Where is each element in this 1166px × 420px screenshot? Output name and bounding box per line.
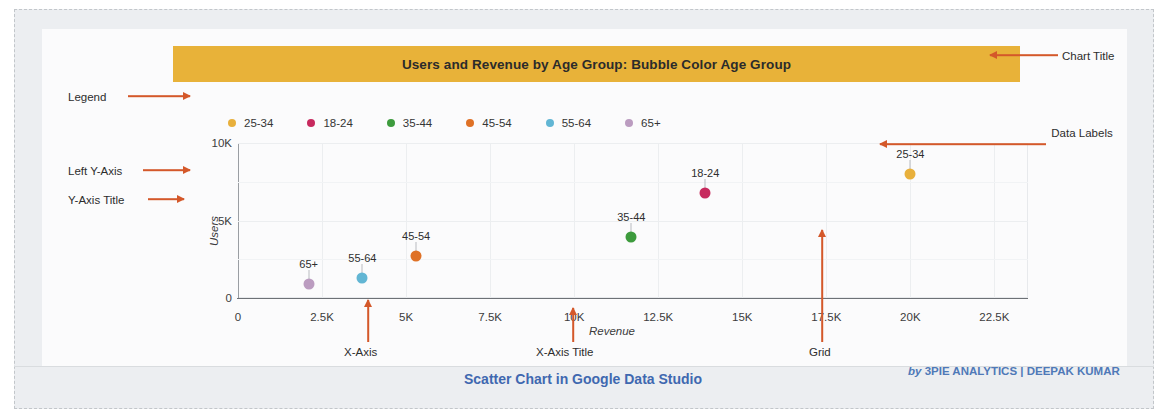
annotation-x-axis-title: X-Axis Title (536, 346, 594, 358)
legend-item-25-34[interactable]: 25-34 (228, 117, 273, 129)
legend-color-swatch-icon (625, 119, 633, 127)
x-axis-tick-label: 20K (900, 311, 920, 323)
legend-item-label: 35-44 (403, 117, 432, 129)
annotation-arrow-y-axis-title (148, 194, 184, 204)
data-label: 35-44 (617, 211, 645, 223)
legend-item-label: 25-34 (244, 117, 273, 129)
legend-item-label: 55-64 (562, 117, 591, 129)
annotation-grid: Grid (809, 346, 831, 358)
caption-divider (14, 366, 1154, 367)
data-bubble-45-54[interactable] (411, 251, 422, 262)
legend-item-65plus[interactable]: 65+ (625, 117, 661, 129)
x-axis-tick-label: 12.5K (643, 311, 673, 323)
legend-item-35-44[interactable]: 35-44 (387, 117, 432, 129)
legend-color-swatch-icon (228, 119, 236, 127)
x-axis-line (237, 298, 1028, 299)
chart-legend[interactable]: 25-3418-2435-4445-5455-6465+ (228, 117, 661, 129)
annotation-legend: Legend (68, 91, 106, 103)
chart-card: Users and Revenue by Age Group: Bubble C… (42, 29, 1127, 367)
chart-title-text: Users and Revenue by Age Group: Bubble C… (402, 57, 791, 72)
x-axis-title: Revenue (173, 325, 1051, 337)
legend-item-45-54[interactable]: 45-54 (466, 117, 511, 129)
data-label: 65+ (299, 258, 318, 270)
y-axis-title: Users (208, 216, 220, 246)
annotation-arrow-legend (128, 91, 190, 101)
x-axis-tick-label: 5K (399, 311, 413, 323)
annotation-left-y-axis: Left Y-Axis (68, 165, 122, 177)
annotation-data-labels: Data Labels (1050, 126, 1114, 140)
annotation-chart-title: Chart Title (1062, 50, 1114, 62)
data-label: 25-34 (896, 148, 924, 160)
annotation-arrow-left-y-axis (143, 165, 190, 175)
data-bubble-55-64[interactable] (357, 272, 368, 283)
data-bubble-18-24[interactable] (700, 187, 711, 198)
legend-color-swatch-icon (307, 119, 315, 127)
x-axis-tick-label: 0 (235, 311, 241, 323)
data-label: 55-64 (348, 252, 376, 264)
legend-item-label: 45-54 (482, 117, 511, 129)
legend-item-label: 18-24 (323, 117, 352, 129)
legend-color-swatch-icon (466, 119, 474, 127)
y-axis-tick-label: 10K (212, 137, 238, 149)
legend-item-label: 65+ (641, 117, 661, 129)
legend-item-55-64[interactable]: 55-64 (546, 117, 591, 129)
y-axis-tick-label: 0 (226, 292, 238, 304)
figure-caption: Scatter Chart in Google Data Studio (0, 371, 1166, 387)
data-bubble-35-44[interactable] (626, 231, 637, 242)
annotation-y-axis-title: Y-Axis Title (68, 194, 124, 206)
chart-title-bar: Users and Revenue by Age Group: Bubble C… (173, 46, 1020, 82)
annotation-arrow-data-labels (880, 139, 1046, 149)
annotation-x-axis: X-Axis (344, 346, 377, 358)
legend-item-18-24[interactable]: 18-24 (307, 117, 352, 129)
x-axis-tick-label: 7.5K (478, 311, 502, 323)
y-axis-tick-label: 5K (218, 215, 238, 227)
x-axis-tick-label: 22.5K (979, 311, 1009, 323)
data-bubble-65plus[interactable] (303, 279, 314, 290)
annotation-arrow-chart-title (990, 50, 1058, 60)
data-label: 45-54 (402, 230, 430, 242)
x-axis-tick-label: 15K (732, 311, 752, 323)
data-bubble-25-34[interactable] (905, 169, 916, 180)
annotation-arrow-grid (817, 230, 827, 342)
annotation-arrow-x-axis-title (568, 308, 578, 342)
legend-color-swatch-icon (387, 119, 395, 127)
x-axis-tick-label: 2.5K (310, 311, 334, 323)
data-label: 18-24 (691, 167, 719, 179)
plot-area: 05K10K02.5K5K7.5K10K12.5K15K17.5K20K22.5… (173, 139, 1051, 324)
legend-color-swatch-icon (546, 119, 554, 127)
plot-canvas: 05K10K02.5K5K7.5K10K12.5K15K17.5K20K22.5… (238, 143, 1028, 298)
gridline-horizontal-minor (238, 182, 1028, 183)
annotation-arrow-x-axis (363, 300, 373, 342)
